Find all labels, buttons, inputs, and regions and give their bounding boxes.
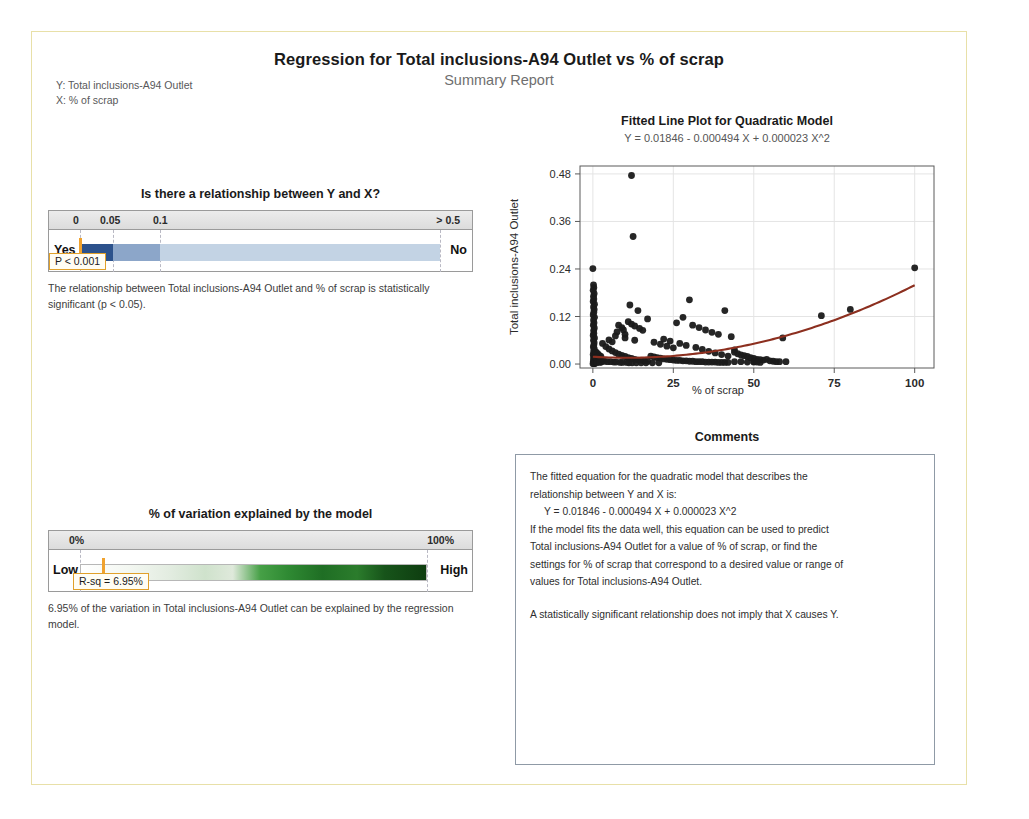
pvalue-callout: P < 0.001 xyxy=(49,253,106,270)
svg-text:0.24: 0.24 xyxy=(550,263,571,275)
fitted-line-plot: Fitted Line Plot for Quadratic Model Y =… xyxy=(502,114,952,414)
scatter-svg: 0.000.120.240.360.480255075100Total incl… xyxy=(502,156,952,414)
svg-text:50: 50 xyxy=(747,377,760,389)
pvalue-scale-label-05: > 0.5 xyxy=(436,214,460,226)
pvalue-gauge-body: Yes No xyxy=(49,230,472,272)
rsq-gauge-scale: 0% 100% xyxy=(49,531,472,550)
svg-text:100: 100 xyxy=(905,377,924,389)
comments-line-4: Total inclusions-A94 Outlet for a value … xyxy=(530,538,920,556)
pvalue-bar-nonsignificant xyxy=(160,244,440,261)
comments-line-2: relationship between Y and X is: xyxy=(530,486,920,504)
pvalue-tick-05 xyxy=(440,230,441,272)
comments-panel: Comments xyxy=(502,430,952,444)
scatter-equation: Y = 0.01846 - 0.000494 X + 0.000023 X^2 xyxy=(502,132,952,144)
rsq-callout: R-sq = 6.95% xyxy=(73,573,149,590)
rsq-scale-label-0: 0% xyxy=(69,534,84,546)
scatter-plot-area: 0.000.120.240.360.480255075100Total incl… xyxy=(502,156,952,414)
scatter-xaxis-title: % of scrap xyxy=(692,384,744,396)
pvalue-right-cap: No xyxy=(450,243,467,257)
rsq-scale-label-100: 100% xyxy=(427,534,454,546)
x-variable-label: X: % of scrap xyxy=(56,93,192,108)
svg-text:75: 75 xyxy=(828,377,841,389)
y-variable-label: Y: Total inclusions-A94 Outlet xyxy=(56,78,192,93)
pvalue-note: The relationship between Total inclusion… xyxy=(48,280,468,312)
comments-line-1: The fitted equation for the quadratic mo… xyxy=(530,468,920,486)
pvalue-bar-marginal xyxy=(113,244,160,261)
svg-text:0.00: 0.00 xyxy=(550,358,571,370)
page-title: Regression for Total inclusions-A94 Outl… xyxy=(32,50,966,69)
comments-line-7: A statistically significant relationship… xyxy=(530,606,920,624)
svg-text:0: 0 xyxy=(590,377,596,389)
rsq-panel-title: % of variation explained by the model xyxy=(48,507,473,521)
svg-text:0.48: 0.48 xyxy=(550,168,571,180)
comments-title: Comments xyxy=(502,430,952,444)
comments-line-3: If the model fits the data well, this eq… xyxy=(530,521,920,539)
svg-text:0.12: 0.12 xyxy=(550,311,571,323)
svg-text:0.36: 0.36 xyxy=(550,215,571,227)
pvalue-gauge: 0 0.05 0.1 > 0.5 Yes No xyxy=(48,210,473,272)
svg-text:25: 25 xyxy=(667,377,680,389)
rsq-note: 6.95% of the variation in Total inclusio… xyxy=(48,600,473,632)
svg-text:Total inclusions-A94 Outlet: Total inclusions-A94 Outlet xyxy=(508,198,520,335)
comments-equation: Y = 0.01846 - 0.000494 X + 0.000023 X^2 xyxy=(530,503,920,521)
comments-box: The fitted equation for the quadratic mo… xyxy=(515,454,935,765)
pvalue-scale-label-0: 0 xyxy=(73,214,79,226)
pvalue-gauge-scale: 0 0.05 0.1 > 0.5 xyxy=(49,211,472,230)
scatter-title: Fitted Line Plot for Quadratic Model xyxy=(502,114,952,128)
rsq-right-cap: High xyxy=(440,563,468,577)
pvalue-panel: Is there a relationship between Y and X?… xyxy=(48,187,473,272)
pvalue-scale-label-01: 0.1 xyxy=(153,214,168,226)
rsq-panel: % of variation explained by the model 0%… xyxy=(48,507,473,592)
report-frame: Regression for Total inclusions-A94 Outl… xyxy=(31,31,967,785)
comments-spacer xyxy=(530,591,920,606)
pvalue-scale-label-005: 0.05 xyxy=(100,214,120,226)
comments-line-6: values for Total inclusions-A94 Outlet. xyxy=(530,573,920,591)
pvalue-panel-title: Is there a relationship between Y and X? xyxy=(48,187,473,201)
comments-line-5: settings for % of scrap that correspond … xyxy=(530,556,920,574)
variable-legend: Y: Total inclusions-A94 Outlet X: % of s… xyxy=(56,78,192,108)
rsq-tick-100 xyxy=(427,550,428,592)
comments-text: The fitted equation for the quadratic mo… xyxy=(516,455,934,636)
